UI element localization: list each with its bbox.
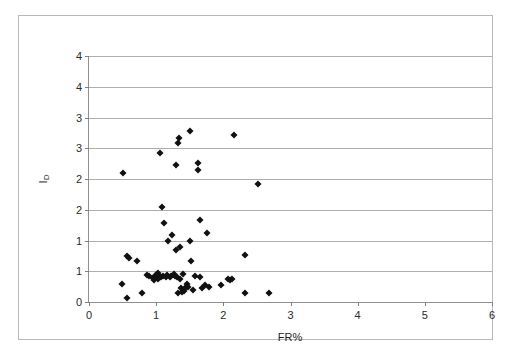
gridline-horizontal [89,179,492,180]
x-tick-label: 3 [287,310,293,321]
y-tick-mark [85,271,89,272]
data-point-marker [197,217,204,224]
x-tick-mark [156,302,157,306]
data-point-marker [190,286,197,293]
data-point-marker [195,159,202,166]
y-tick-mark [85,118,89,119]
y-tick-mark [85,210,89,211]
gridline-horizontal [89,118,492,119]
data-point-marker [123,294,130,301]
x-tick-label: 6 [489,310,495,321]
gridline-horizontal [89,87,492,88]
x-tick-label: 0 [86,310,92,321]
y-tick-label: 3 [76,112,82,123]
x-tick-label: 4 [355,310,361,321]
y-tick-mark [85,179,89,180]
data-point-marker [173,161,180,168]
gridline-horizontal [89,210,492,211]
y-axis-title-main: I [37,180,49,183]
x-tick-mark [425,302,426,306]
y-axis-title-subscript: D [42,175,51,181]
data-point-marker [187,127,194,134]
data-point-marker [254,180,261,187]
data-point-marker [203,230,210,237]
data-point-marker [169,231,176,238]
y-tick-label: 1 [76,266,82,277]
y-tick-label: 1 [76,235,82,246]
x-tick-mark [223,302,224,306]
x-tick-mark [89,302,90,306]
data-point-marker [177,243,184,250]
data-point-marker [217,282,224,289]
data-point-marker [134,258,141,265]
data-point-marker [242,289,249,296]
x-tick-label: 5 [422,310,428,321]
data-point-marker [156,150,163,157]
data-point-marker [126,254,133,261]
data-point-marker [231,132,238,139]
y-tick-label: 4 [76,51,82,62]
y-tick-label: 2 [76,174,82,185]
y-tick-mark [85,148,89,149]
data-point-marker [196,273,203,280]
x-tick-label: 2 [220,310,226,321]
y-axis-title: ID [38,175,49,184]
data-point-marker [186,237,193,244]
y-tick-label: 0 [76,297,82,308]
chart-outer-frame: 011223344 0123456 ID FR% [18,15,493,340]
y-tick-mark [85,56,89,57]
gridline-horizontal [89,241,492,242]
y-tick-mark [85,241,89,242]
data-point-marker [205,284,212,291]
x-tick-mark [291,302,292,306]
x-tick-label: 1 [153,310,159,321]
data-point-marker [160,220,167,227]
x-tick-mark [492,302,493,306]
gridline-horizontal [89,56,492,57]
data-point-marker [119,170,126,177]
data-point-marker [139,289,146,296]
plot-area: 011223344 0123456 [88,56,492,303]
data-point-marker [265,290,272,297]
data-point-marker [188,258,195,265]
data-point-marker [194,167,201,174]
data-point-marker [118,280,125,287]
scatter-chart-figure: 011223344 0123456 ID FR% [0,0,505,353]
x-tick-mark [358,302,359,306]
y-tick-label: 2 [76,204,82,215]
y-tick-mark [85,87,89,88]
data-point-marker [241,252,248,259]
gridline-horizontal [89,148,492,149]
x-axis-title: FR% [88,332,492,343]
y-tick-label: 3 [76,143,82,154]
y-tick-label: 4 [76,81,82,92]
